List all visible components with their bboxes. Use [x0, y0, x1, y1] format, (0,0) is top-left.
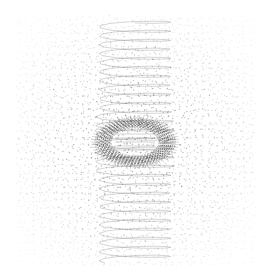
generative-pattern-canvas: [0, 0, 267, 274]
